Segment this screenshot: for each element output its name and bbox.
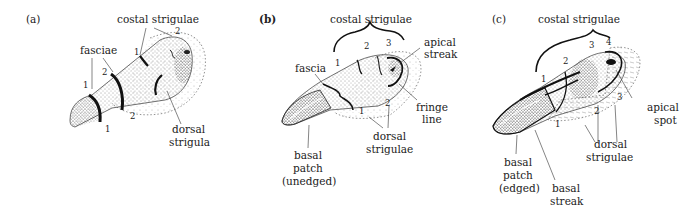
panel-b-costal-strigulae-label: costal strigulae <box>330 14 412 25</box>
panel-a-dorsal-strigula-label-1: dorsal <box>172 124 205 135</box>
panel-b-fringe-line-label-2: line <box>422 114 442 125</box>
panel-b-basal-patch-label-2: patch <box>293 163 323 174</box>
panel-a-dorsal-strigula-label-2: strigula <box>169 137 210 148</box>
panel-c-basal-streak-label-2: streak <box>550 196 583 207</box>
panel-a-fascia-lower-number-1: 1 <box>105 124 110 134</box>
panel-b-fascia-label: fascia <box>295 63 326 74</box>
panel-b-apical-streak-label-2: streak <box>424 49 457 60</box>
panel-a-letter: (a) <box>26 13 40 25</box>
panel-c-basal-patch-label-2: patch <box>503 170 533 181</box>
panel-c-dorsal-strigulae-label-2: strigulae <box>586 152 633 163</box>
panel-c-dorsal-number-1: 1 <box>555 119 560 129</box>
panel-b-costal-number-2: 2 <box>364 41 369 51</box>
panel-b-dorsal-strigulae-label-1: dorsal <box>373 131 406 142</box>
panel-c-basal-patch-label-3: (edged) <box>499 183 540 194</box>
panel-c-dorsal-strigulae-label-1: dorsal <box>594 139 627 150</box>
panel-c-costal-number-3: 3 <box>589 40 594 50</box>
panel-a-fascia-lower-number-2: 2 <box>130 111 135 121</box>
panel-a-fasciae-label: fasciae <box>80 45 117 56</box>
panel-c-basal-streak-label-1: basal <box>552 183 580 194</box>
panel-a-costal-strigulae-label: costal strigulae <box>117 14 199 25</box>
panel-b-costal-number-1: 1 <box>335 58 340 68</box>
panel-c-costal-number-4: 4 <box>606 37 611 47</box>
panel-c-costal-number-1: 1 <box>541 74 546 84</box>
panel-c-letter: (c) <box>492 13 506 25</box>
panel-c-dorsal-number-3: 3 <box>617 92 622 102</box>
panel-b-letter: (b) <box>259 13 276 25</box>
panel-a-wing <box>70 28 205 127</box>
panel-a-costal-number-2: 2 <box>175 26 180 36</box>
panel-b-dorsal-number-2: 2 <box>385 98 390 108</box>
panel-b-basal-patch-label-1: basal <box>294 150 322 161</box>
panel-c-dorsal-number-2: 2 <box>594 106 599 116</box>
panel-c-apical-spot-label-2: spot <box>654 115 677 126</box>
panel-c-basal-patch-label-1: basal <box>504 157 532 168</box>
panel-c-costal-number-2: 2 <box>563 56 568 66</box>
panel-b-costal-number-3: 3 <box>386 38 391 48</box>
panel-a-costal-number-1: 1 <box>134 47 139 57</box>
panel-b-apical-streak-label-1: apical <box>424 37 456 48</box>
panel-c-costal-strigulae-label: costal strigulae <box>538 14 620 25</box>
panel-b-basal-patch-label-3: (unedged) <box>282 176 336 187</box>
panel-a-fascia-number-2: 2 <box>102 67 107 77</box>
panel-b-dorsal-strigulae-label-2: strigulae <box>366 144 413 155</box>
panel-a-fascia-number-1: 1 <box>83 80 88 90</box>
panel-b-fringe-line-label-1: fringe <box>416 102 448 113</box>
panel-b-letter-text: (b) <box>259 13 276 25</box>
panel-b-dorsal-number-1: 1 <box>359 106 364 116</box>
panel-c-apical-spot-label-1: apical <box>647 102 679 113</box>
wing-pattern-figure: (a) costal strigulae fasciae dorsal stri… <box>0 0 699 213</box>
